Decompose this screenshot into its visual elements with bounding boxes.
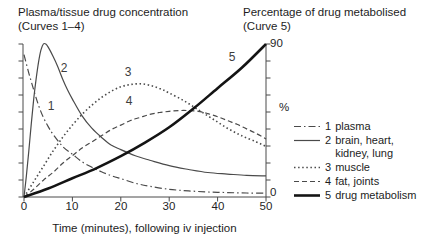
- legend-item-plasma: 1 plasma: [294, 120, 416, 133]
- legend-item-label: plasma: [335, 120, 370, 133]
- legend-item-number: 4: [325, 175, 331, 188]
- solid-line-icon: [294, 134, 320, 147]
- x-tick-0: 0: [12, 200, 36, 212]
- legend-item-label: fat, joints: [335, 175, 379, 188]
- x-axis-label: Time (minutes), following iv injection: [23, 222, 266, 234]
- legend-item-muscle: 3 muscle: [294, 161, 416, 174]
- curve-number-label-5: 5: [229, 50, 236, 64]
- figure: Plasma/tissue drug concentration (Curves…: [0, 0, 428, 249]
- x-tick-30: 30: [157, 200, 181, 212]
- curve-number-label-4: 4: [126, 94, 133, 108]
- legend-item-label: drug metabolism: [335, 189, 416, 202]
- legend-label-text2: kidney, lung: [335, 147, 394, 160]
- legend-item-number: 5: [325, 189, 331, 202]
- legend-label-text: brain, heart,: [335, 134, 394, 146]
- legend-item-drug-metabolism: 5 drug metabolism: [294, 189, 416, 202]
- legend-label-text: muscle: [335, 161, 370, 173]
- legend: 1 plasma 2 brain, heart,kidney, lung 3 m…: [294, 120, 416, 203]
- x-tick-40: 40: [206, 200, 230, 212]
- dotted-line-icon: [294, 161, 320, 174]
- dashed-line-icon: [294, 175, 320, 188]
- right-axis-min-label: 0: [270, 186, 276, 198]
- thick-line-icon: [294, 189, 320, 202]
- x-tick-20: 20: [109, 200, 133, 212]
- legend-label-text: plasma: [335, 120, 370, 132]
- curve-number-label-1: 1: [48, 99, 55, 113]
- x-tick-50: 50: [254, 200, 278, 212]
- legend-item-label: brain, heart,kidney, lung: [335, 134, 394, 160]
- curve-number-label-3: 3: [125, 65, 132, 79]
- legend-item-fat-joints: 4 fat, joints: [294, 175, 416, 188]
- curve-number-label-2: 2: [61, 61, 68, 75]
- dashdot-line-icon: [294, 120, 320, 133]
- legend-item-number: 3: [325, 161, 331, 174]
- legend-item-number: 1: [325, 120, 331, 133]
- x-tick-10: 10: [60, 200, 84, 212]
- legend-label-text: fat, joints: [335, 175, 379, 187]
- legend-item-brain-heart-kidney-lung: 2 brain, heart,kidney, lung: [294, 134, 416, 160]
- right-axis-max-label: 90: [270, 37, 283, 49]
- right-axis-unit-label: %: [279, 101, 289, 113]
- curve-3-muscle: [24, 84, 266, 197]
- legend-item-number: 2: [325, 134, 331, 147]
- legend-label-text: drug metabolism: [335, 189, 416, 201]
- legend-item-label: muscle: [335, 161, 370, 174]
- curve-1-plasma: [24, 55, 266, 194]
